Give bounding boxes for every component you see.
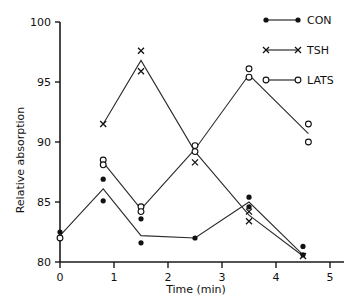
data-point-con — [300, 244, 305, 249]
legend-item-con: CON — [263, 14, 331, 27]
y-tick-label: 90 — [37, 136, 51, 149]
x-tick-label: 4 — [273, 271, 280, 284]
y-axis-ticks: 80859095100 — [30, 16, 60, 269]
y-tick-label: 95 — [37, 76, 51, 89]
x-tick-label: 1 — [111, 271, 118, 284]
legend-label-con: CON — [307, 14, 332, 27]
chart-figure: 80859095100 012345 Relative absorption T… — [0, 0, 356, 305]
data-point-tsh — [246, 209, 252, 215]
y-axis-label: Relative absorption — [14, 107, 27, 214]
data-point-lats — [246, 66, 252, 72]
data-point-lats — [306, 121, 312, 127]
legend-label-lats: LATS — [307, 74, 334, 87]
x-axis-label: Time (min) — [165, 283, 226, 296]
data-point-con — [192, 235, 197, 240]
y-tick-label: 80 — [37, 256, 51, 269]
data-point-con — [246, 204, 251, 209]
data-point-con — [101, 198, 106, 203]
y-tick-label: 100 — [30, 16, 51, 29]
series-lines — [60, 60, 308, 256]
data-point-con — [57, 229, 62, 234]
x-tick-label: 0 — [57, 271, 64, 284]
data-point-lats — [192, 143, 198, 149]
x-axis-ticks: 012345 — [57, 262, 334, 284]
legend-item-tsh: TSH — [263, 44, 329, 57]
data-point-lats — [57, 235, 63, 241]
data-point-con — [138, 240, 143, 245]
series-line-lats — [103, 75, 308, 209]
chart-legend: CONTSHLATS — [263, 14, 334, 87]
data-point-lats — [138, 209, 144, 215]
y-tick-label: 85 — [37, 196, 51, 209]
data-point-tsh — [246, 218, 252, 224]
data-point-con — [101, 177, 106, 182]
data-point-lats — [192, 149, 198, 155]
data-point-tsh — [100, 121, 106, 127]
legend-marker-con — [263, 17, 268, 22]
data-point-lats — [100, 162, 106, 168]
data-point-tsh — [138, 48, 144, 54]
legend-marker-lats — [263, 77, 269, 83]
relative-absorption-line-chart: 80859095100 012345 Relative absorption T… — [0, 0, 356, 305]
data-point-con — [246, 195, 251, 200]
data-point-con — [138, 216, 143, 221]
legend-label-tsh: TSH — [306, 44, 329, 57]
data-point-tsh — [138, 68, 144, 74]
series-line-con — [60, 189, 303, 255]
data-point-tsh — [192, 159, 198, 165]
x-tick-label: 5 — [327, 271, 334, 284]
chart-axes — [60, 22, 344, 262]
data-point-lats — [306, 139, 312, 145]
legend-marker-con — [295, 17, 300, 22]
legend-marker-lats — [295, 77, 301, 83]
data-point-lats — [246, 74, 252, 80]
legend-item-lats: LATS — [263, 74, 334, 87]
